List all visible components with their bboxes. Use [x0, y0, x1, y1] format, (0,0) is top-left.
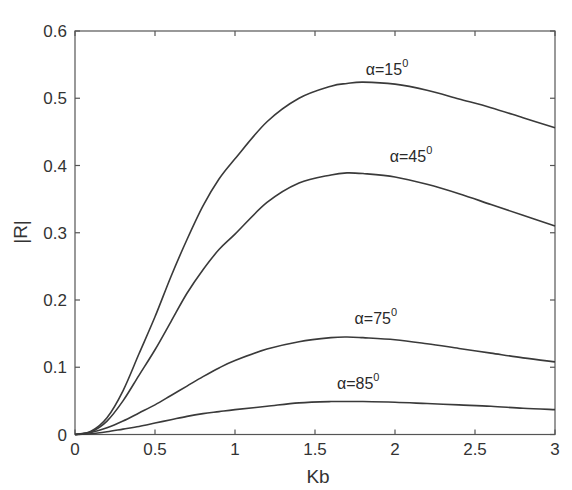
y-tick-label: 0.1 [43, 358, 67, 377]
curve-label: α=850 [337, 371, 380, 392]
y-axis-title: |R| [10, 220, 31, 244]
x-tick-label: 0 [70, 440, 79, 459]
x-tick-label: 2.5 [463, 440, 487, 459]
y-tick-label: 0.6 [43, 22, 67, 41]
line-chart: 00.511.522.53 00.10.20.30.40.50.6 α=150α… [0, 0, 572, 490]
x-axis-title: Kb [306, 466, 329, 487]
y-tick-label: 0.5 [43, 89, 67, 108]
y-tick-label: 0 [58, 426, 67, 445]
x-tick-label: 3 [550, 440, 559, 459]
y-tick-label: 0.2 [43, 291, 67, 310]
curve-15deg [75, 82, 555, 434]
x-tick-label: 2 [390, 440, 399, 459]
curve-annotations: α=150α=450α=750α=850 [337, 57, 432, 392]
x-axis: 00.511.522.53 [70, 31, 559, 459]
x-tick-label: 1.5 [303, 440, 327, 459]
curve-label: α=750 [355, 306, 398, 327]
y-tick-label: 0.3 [43, 224, 67, 243]
y-tick-label: 0.4 [43, 157, 67, 176]
x-tick-label: 1 [230, 440, 239, 459]
curve-45deg [75, 173, 555, 435]
curve-label: α=450 [390, 144, 433, 165]
y-axis: 00.10.20.30.40.50.6 [43, 22, 555, 445]
x-tick-label: 0.5 [143, 440, 167, 459]
curve-75deg [75, 337, 555, 435]
curve-series [75, 82, 555, 434]
curve-label: α=150 [366, 57, 409, 78]
